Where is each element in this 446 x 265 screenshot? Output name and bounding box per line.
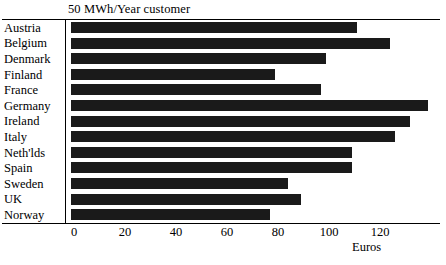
bar: [71, 38, 390, 49]
x-tick-label: 100: [320, 225, 339, 240]
category-label: Denmark: [4, 53, 51, 66]
bar-row: Germany: [0, 98, 446, 114]
bar-row: Norway: [0, 207, 446, 223]
category-label: UK: [4, 193, 22, 206]
bar: [71, 69, 275, 80]
bar-row: Austria: [0, 20, 446, 36]
x-tick-label: 20: [119, 225, 132, 240]
bar-row: Ireland: [0, 114, 446, 130]
bar: [71, 100, 428, 111]
bar-chart: 50 MWh/Year customer AustriaBelgiumDenma…: [0, 0, 446, 265]
x-tick-label: 0: [71, 225, 77, 240]
x-tick-label: 80: [272, 225, 285, 240]
x-axis-title: Euros: [352, 240, 381, 255]
bar-row: Belgium: [0, 36, 446, 52]
bar: [71, 178, 288, 189]
category-label: Spain: [4, 162, 32, 175]
category-label: Italy: [4, 131, 27, 144]
bar-rows: AustriaBelgiumDenmarkFinlandFranceGerman…: [0, 20, 446, 223]
bar: [71, 209, 270, 220]
category-label: France: [4, 84, 38, 97]
bar-row: Sweden: [0, 176, 446, 192]
bar: [71, 162, 352, 173]
bar-row: Denmark: [0, 51, 446, 67]
category-label: Finland: [4, 68, 42, 81]
category-label: Austria: [4, 22, 41, 35]
chart-title: 50 MWh/Year customer: [68, 2, 190, 17]
bar: [71, 147, 352, 158]
bar-row: Neth'lds: [0, 145, 446, 161]
category-label: Norway: [4, 209, 44, 222]
category-label: Germany: [4, 100, 51, 113]
bar-row: Spain: [0, 160, 446, 176]
category-label: Ireland: [4, 115, 39, 128]
bar: [71, 22, 357, 33]
bar: [71, 194, 301, 205]
x-tick-label: 120: [371, 225, 390, 240]
category-label: Sweden: [4, 177, 44, 190]
category-label: Belgium: [4, 37, 47, 50]
bar: [71, 131, 395, 142]
bar-row: Italy: [0, 129, 446, 145]
bar: [71, 53, 326, 64]
category-label: Neth'lds: [4, 146, 45, 159]
x-tick-label: 60: [221, 225, 234, 240]
bar: [71, 84, 321, 95]
bar: [71, 116, 410, 127]
bar-row: France: [0, 82, 446, 98]
bar-row: UK: [0, 192, 446, 208]
x-tick-label: 40: [170, 225, 183, 240]
bar-row: Finland: [0, 67, 446, 83]
